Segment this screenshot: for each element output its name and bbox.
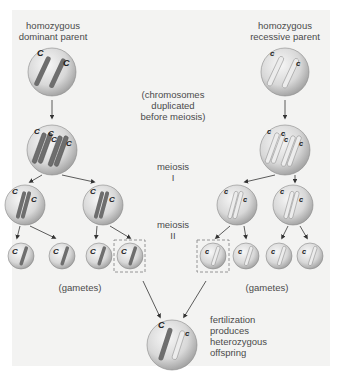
dominant-meiosis1-cells: C C C C <box>5 185 123 225</box>
gamete-C-1: C <box>8 243 34 269</box>
gamete-c-4: c <box>297 243 323 269</box>
gamete-c-2: c <box>233 243 259 269</box>
heterozygous-offspring-cell: C c <box>147 320 197 370</box>
svg-text:C: C <box>31 195 37 204</box>
svg-text:C: C <box>37 48 44 58</box>
meiosis-1-label: meiosis I <box>148 161 198 183</box>
gamete-C-4-selected: C <box>117 243 143 269</box>
recessive-duplicated-cell: c c c c <box>260 125 310 175</box>
recessive-parent-label: homozygous recessive parent <box>240 20 330 42</box>
svg-text:C: C <box>51 135 57 144</box>
svg-text:C: C <box>158 320 165 330</box>
svg-text:C: C <box>121 247 127 256</box>
gametes-left-label: (gametes) <box>50 282 110 293</box>
gamete-C-2: C <box>49 243 75 269</box>
gamete-C-3: C <box>86 243 112 269</box>
svg-text:C: C <box>109 195 115 204</box>
svg-text:c: c <box>185 329 190 338</box>
gamete-c-1-selected: c <box>200 243 226 269</box>
svg-text:C: C <box>63 58 70 68</box>
svg-text:c: c <box>270 49 275 58</box>
svg-text:C: C <box>12 247 18 256</box>
svg-text:C: C <box>53 247 59 256</box>
recessive-parent-cell: c c <box>261 48 309 96</box>
recessive-meiosis1-cells: c c c c <box>217 185 313 225</box>
svg-text:C: C <box>66 139 72 148</box>
dominant-duplicated-cell: C C C C <box>27 125 77 175</box>
recessive-gametes: c c c c <box>197 240 323 272</box>
meiosis-2-label: meiosis II <box>148 219 198 241</box>
gamete-c-3: c <box>266 243 292 269</box>
duplication-note: (chromosomes duplicated before meiosis) <box>128 89 218 122</box>
gametes-right-label: (gametes) <box>237 282 297 293</box>
dominant-parent-label: homozygous dominant parent <box>10 20 96 42</box>
fertilization-note: fertilization produces heterozygous offs… <box>210 314 290 358</box>
svg-text:C: C <box>12 187 18 196</box>
svg-text:C: C <box>90 187 96 196</box>
dominant-gametes: C C C C <box>8 240 145 272</box>
svg-text:C: C <box>90 247 96 256</box>
dominant-parent-cell: C C <box>28 48 76 96</box>
svg-text:c: c <box>296 59 301 68</box>
svg-text:C: C <box>34 127 40 136</box>
